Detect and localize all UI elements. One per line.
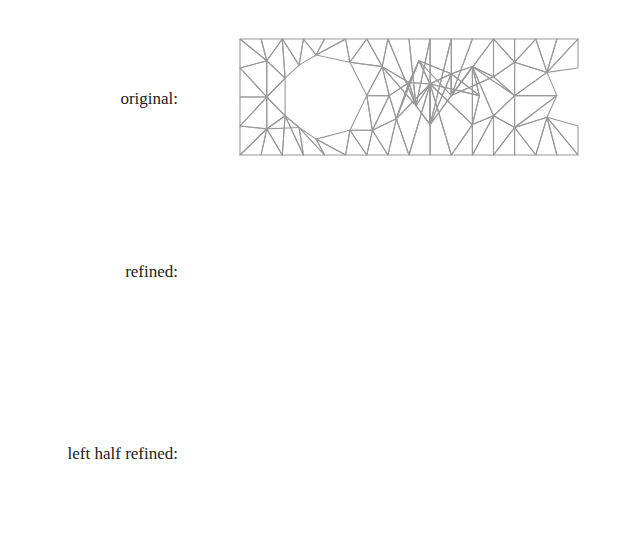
mesh-edges — [240, 39, 578, 155]
mesh-plots — [0, 0, 625, 558]
mesh-plot-0 — [240, 39, 578, 155]
